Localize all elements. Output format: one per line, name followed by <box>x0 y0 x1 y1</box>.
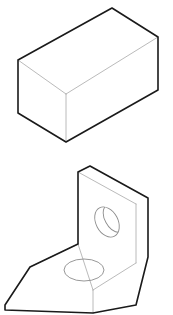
drawing-sheet <box>0 0 173 315</box>
angle-bracket-svg <box>0 155 173 315</box>
rectangular-block-svg <box>0 0 173 155</box>
figure-angle-bracket <box>0 155 173 315</box>
figure-rectangular-block <box>0 0 173 155</box>
bracket-upright-side-face <box>136 198 148 263</box>
